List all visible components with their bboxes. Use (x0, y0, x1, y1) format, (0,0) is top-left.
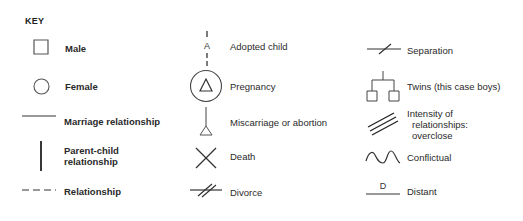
label-twins: Twins (this case boys) (407, 81, 500, 92)
triangle-in-circle-icon (189, 69, 223, 103)
vertical-line-icon (39, 141, 43, 171)
label-parent-child-1: Parent-child (64, 145, 119, 156)
label-separation: Separation (407, 45, 453, 56)
svg-text:D: D (380, 181, 387, 191)
label-divorce: Divorce (230, 187, 262, 198)
dashed-vertical-A-icon: A (200, 31, 214, 67)
line-with-triangle-icon (197, 107, 215, 138)
solid-horizontal-line-icon (22, 114, 56, 118)
dashed-line-icon (22, 188, 56, 192)
label-adopted: Adopted child (230, 41, 288, 52)
label-pregnancy: Pregnancy (230, 81, 275, 92)
label-parent-child-2: relationship (64, 156, 118, 167)
label-distant: Distant (407, 186, 437, 197)
label-female: Female (65, 81, 98, 92)
label-male: Male (65, 43, 86, 54)
label-miscarriage: Miscarriage or abortion (230, 117, 327, 128)
square-icon (33, 39, 49, 55)
label-relationship: Relationship (64, 186, 121, 197)
label-overclose-2: relationships: (412, 119, 468, 130)
x-cross-icon (194, 146, 218, 170)
label-death: Death (230, 151, 255, 162)
twins-tree-icon (365, 71, 401, 103)
svg-text:A: A (204, 41, 210, 51)
label-overclose-1: Intensity of (407, 108, 453, 119)
label-marriage: Marriage relationship (64, 116, 160, 127)
wavy-line-icon (365, 149, 401, 165)
circle-icon (33, 78, 50, 95)
triple-parallel-lines-icon (367, 111, 399, 137)
double-slash-line-icon (190, 182, 222, 198)
label-conflictual: Conflictual (407, 152, 451, 163)
line-with-D-icon: D (366, 180, 400, 196)
key-title: KEY (25, 16, 44, 26)
label-overclose-3: overclose (412, 130, 453, 141)
single-slash-line-icon (367, 43, 401, 55)
